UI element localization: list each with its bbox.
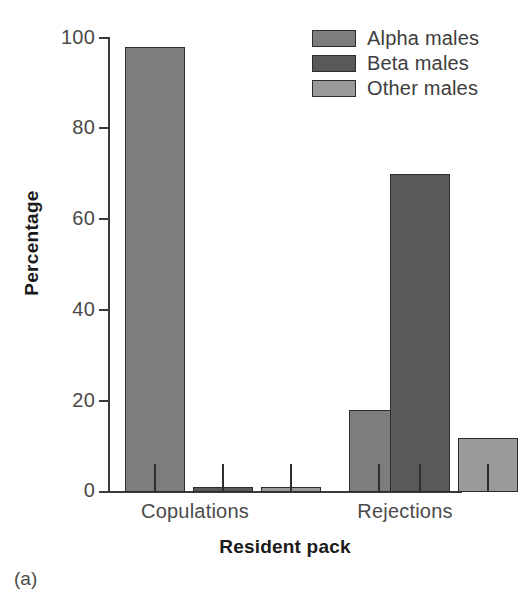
plot-area [109, 38, 461, 492]
y-tick-100 [99, 37, 108, 39]
x-axis-title: Resident pack [108, 536, 462, 558]
legend-swatch-alpha-males [312, 30, 356, 47]
y-tick-60 [99, 218, 108, 220]
y-tick-label-20: 20 [40, 389, 95, 412]
category-tick-3 [290, 464, 292, 492]
y-tick-40 [99, 309, 108, 311]
category-tick-6 [487, 464, 489, 492]
y-tick-label-80: 80 [40, 116, 95, 139]
y-tick-20 [99, 400, 108, 402]
legend-swatch-beta-males [312, 55, 356, 72]
x-category-label-copulations: Copulations [115, 500, 275, 523]
legend-item-beta-males: Beta males [312, 51, 512, 75]
y-tick-80 [99, 127, 108, 129]
y-tick-label-0: 0 [40, 479, 95, 502]
category-tick-2 [222, 464, 224, 492]
legend-swatch-other-males [312, 80, 356, 97]
legend-item-other-males: Other males [312, 76, 512, 100]
y-tick-0 [99, 491, 108, 493]
legend-label-other-males: Other males [367, 77, 478, 100]
bar-rejections-beta [390, 174, 450, 492]
y-tick-label-40: 40 [40, 298, 95, 321]
y-tick-label-100: 100 [40, 26, 95, 49]
y-tick-labels: 100 80 60 40 20 0 [40, 0, 95, 610]
y-axis-title: Percentage [21, 163, 43, 323]
figure-caption: (a) [14, 568, 37, 590]
y-tick-label-60: 60 [40, 207, 95, 230]
category-tick-1 [154, 464, 156, 492]
legend-label-beta-males: Beta males [367, 52, 469, 75]
chart-legend: Alpha males Beta males Other males [312, 26, 512, 101]
figure-panel: 100 80 60 40 20 0 Percentage Copulations… [0, 0, 520, 610]
category-tick-5 [419, 464, 421, 492]
bar-copulations-alpha [125, 47, 185, 492]
legend-item-alpha-males: Alpha males [312, 26, 512, 50]
x-category-label-rejections: Rejections [330, 500, 480, 523]
legend-label-alpha-males: Alpha males [367, 27, 479, 50]
category-tick-4 [378, 464, 380, 492]
